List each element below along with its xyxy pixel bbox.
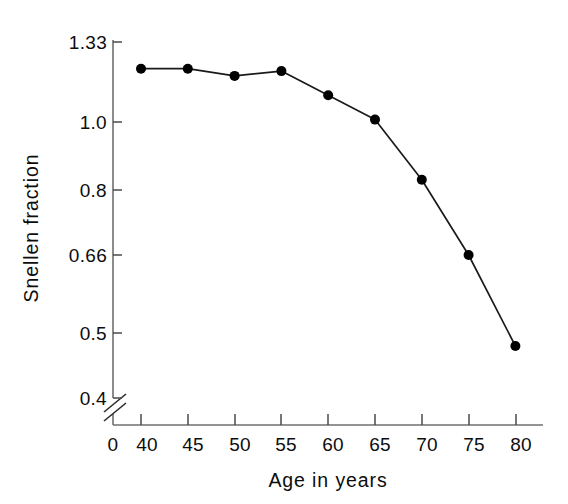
data-point-age-70 bbox=[417, 175, 427, 185]
snellen-fraction-line-chart: 1.33 1.0 0.8 0.66 0.5 0.4 0 40 45 50 55 … bbox=[0, 0, 568, 504]
y-tick-label-1.0: 1.0 bbox=[80, 112, 107, 133]
series-markers bbox=[136, 64, 520, 351]
series-line-snellen bbox=[141, 69, 515, 346]
data-point-age-60 bbox=[323, 90, 333, 100]
y-tick-label-1.33: 1.33 bbox=[69, 32, 107, 53]
y-tick-label-0.4: 0.4 bbox=[80, 388, 107, 409]
x-tick-label-50: 50 bbox=[229, 434, 251, 455]
x-tick-label-0: 0 bbox=[108, 434, 119, 455]
data-point-age-55 bbox=[276, 66, 286, 76]
data-point-age-50 bbox=[230, 71, 240, 81]
x-tick-label-80: 80 bbox=[510, 434, 532, 455]
x-tick-label-75: 75 bbox=[463, 434, 485, 455]
data-point-age-40 bbox=[136, 64, 146, 74]
y-axis-title: Snellen fraction bbox=[20, 154, 42, 303]
y-tick-label-0.66: 0.66 bbox=[69, 245, 107, 266]
data-point-age-45 bbox=[183, 64, 193, 74]
x-axis-ticks bbox=[141, 414, 516, 425]
y-tick-label-0.8: 0.8 bbox=[80, 180, 107, 201]
chart-container: 1.33 1.0 0.8 0.66 0.5 0.4 0 40 45 50 55 … bbox=[0, 0, 568, 504]
x-tick-label-55: 55 bbox=[275, 434, 297, 455]
data-point-age-75 bbox=[464, 250, 474, 260]
x-tick-label-70: 70 bbox=[416, 434, 438, 455]
x-tick-label-60: 60 bbox=[322, 434, 344, 455]
data-point-age-80 bbox=[510, 341, 520, 351]
x-axis-title: Age in years bbox=[268, 469, 387, 491]
y-axis-ticks bbox=[113, 42, 122, 398]
data-point-age-65 bbox=[370, 115, 380, 125]
x-tick-label-40: 40 bbox=[136, 434, 158, 455]
x-tick-label-45: 45 bbox=[182, 434, 204, 455]
x-tick-label-65: 65 bbox=[369, 434, 391, 455]
y-tick-label-0.5: 0.5 bbox=[80, 323, 107, 344]
